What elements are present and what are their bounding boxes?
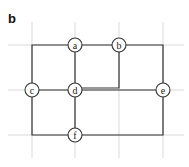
node-c: c — [25, 83, 39, 97]
node-a: a — [68, 38, 82, 52]
graph-edges — [32, 45, 163, 135]
node-e: e — [156, 83, 170, 97]
node-b: b — [112, 38, 126, 52]
edge-b-e — [119, 45, 163, 90]
node-label: c — [30, 85, 35, 96]
node-f: f — [68, 128, 82, 142]
edge-b-d — [75, 45, 119, 88]
node-label: e — [161, 85, 166, 96]
node-label: a — [73, 40, 78, 51]
grid-graph-diagram: abcdef — [0, 0, 189, 167]
edge-c-f — [32, 90, 75, 135]
edge-a-c — [32, 45, 75, 90]
node-label: b — [117, 40, 122, 51]
node-d: d — [68, 83, 82, 97]
node-label: d — [73, 85, 78, 96]
